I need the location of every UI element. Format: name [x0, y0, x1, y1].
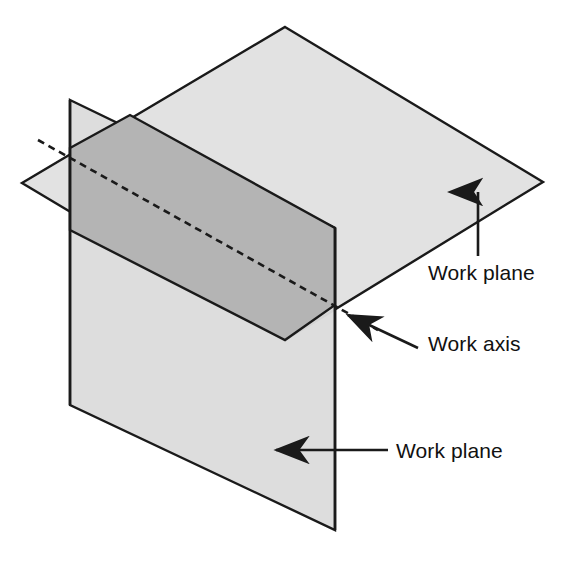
work-plane-top-label: Work plane [428, 261, 535, 284]
diagram-canvas: Work plane Work axis Work plane [0, 0, 568, 585]
work-axis-label: Work axis [428, 332, 521, 355]
work-plane-diagram: Work plane Work axis Work plane [0, 0, 568, 585]
work-plane-bottom-label: Work plane [396, 439, 503, 462]
work-axis-leader [348, 315, 418, 348]
